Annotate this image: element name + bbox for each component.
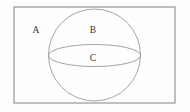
region-label-c: C	[90, 53, 97, 63]
set-diagram-svg: A B C	[0, 0, 190, 112]
region-label-b: B	[90, 25, 97, 35]
region-label-a: A	[32, 25, 39, 35]
set-diagram-container: A B C	[0, 0, 190, 112]
